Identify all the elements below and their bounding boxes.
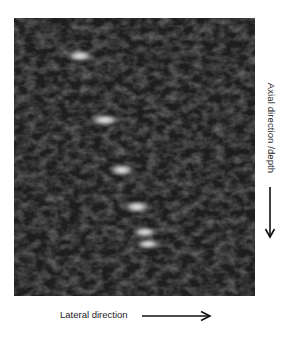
point-target-1 xyxy=(64,49,96,63)
ultrasound-image xyxy=(14,18,255,296)
axial-direction-label: Axial direction /depth xyxy=(266,83,277,173)
ultrasound-speckle-canvas xyxy=(14,18,255,296)
point-target-6 xyxy=(133,238,163,250)
arrow-down-icon xyxy=(264,187,276,239)
point-target-2 xyxy=(88,113,122,127)
point-target-5 xyxy=(130,226,160,238)
point-target-3 xyxy=(107,163,137,177)
point-target-4 xyxy=(122,200,152,214)
arrow-right-icon xyxy=(142,310,212,322)
lateral-direction-label: Lateral direction xyxy=(60,309,128,320)
